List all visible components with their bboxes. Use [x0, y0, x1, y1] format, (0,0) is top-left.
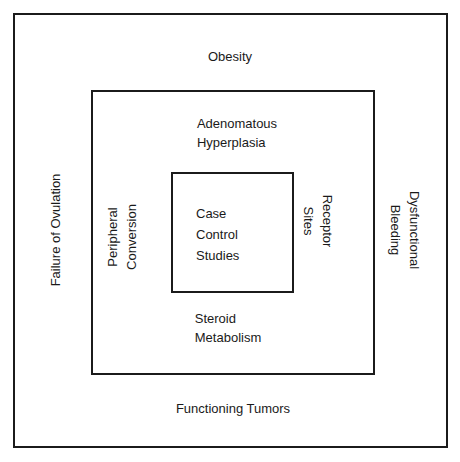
nested-boxes-diagram: Obesity Functioning Tumors Failure of Ov…: [0, 0, 460, 462]
label-case-control-studies: Case Control Studies: [196, 203, 239, 266]
label-steroid-metabolism: Steroid Metabolism: [195, 309, 261, 347]
label-dysfunctional-bleeding: Dysfunctional Bleeding: [386, 191, 424, 269]
label-failure-of-ovulation: Failure of Ovulation: [46, 174, 65, 287]
label-receptor-sites: Receptor Sites: [299, 195, 337, 248]
label-functioning-tumors: Functioning Tumors: [176, 399, 290, 418]
label-obesity: Obesity: [208, 47, 252, 66]
label-peripheral-conversion: Peripheral Conversion: [103, 204, 141, 270]
label-adenomatous-hyperplasia: Adenomatous Hyperplasia: [197, 114, 277, 152]
